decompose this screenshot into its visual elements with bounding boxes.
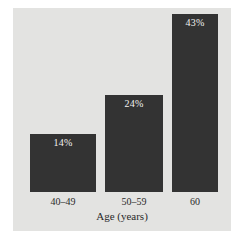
bar-50-59: 24% [105, 95, 163, 192]
x-axis-title: Age (years) [13, 210, 231, 223]
x-tick-label-60: 60 [172, 196, 218, 208]
bar-60: 43% [172, 14, 218, 192]
bar-value-label-40-49: 14% [30, 137, 96, 148]
x-tick-label-50-59: 50–59 [105, 196, 163, 208]
plot-panel: 14% 24% 43% 40–49 50–59 60 Age (years) [13, 8, 231, 231]
x-tick-label-40-49: 40–49 [30, 196, 96, 208]
bar-chart-figure: 14% 24% 43% 40–49 50–59 60 Age (years) [0, 0, 242, 239]
bar-value-label-50-59: 24% [105, 98, 163, 109]
bar-value-label-60: 43% [172, 17, 218, 28]
bar-40-49: 14% [30, 134, 96, 192]
